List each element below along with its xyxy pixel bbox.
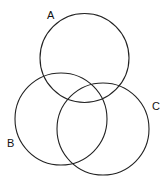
- circle-a: [40, 14, 129, 103]
- circle-c: [57, 83, 149, 175]
- label-c: C: [152, 100, 160, 112]
- venn-diagram: A B C: [0, 0, 168, 183]
- label-a: A: [47, 9, 55, 21]
- circle-b: [15, 73, 107, 165]
- label-b: B: [7, 137, 14, 149]
